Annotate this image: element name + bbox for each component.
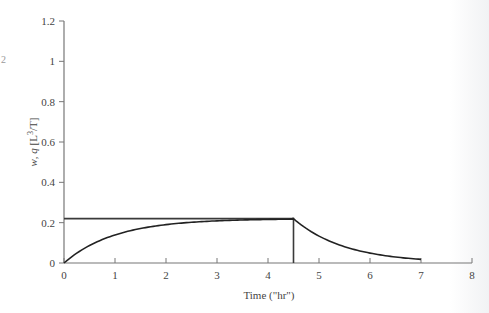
y-tick-label: 0.6	[41, 136, 55, 148]
x-tick-label: 3	[214, 269, 220, 281]
y-axis-title: w, q [L3/T]	[26, 118, 40, 167]
y-axis: 00.20.40.60.811.2	[41, 15, 64, 269]
y-tick-label: 0.2	[41, 217, 55, 229]
x-axis-title: Time ("hr")	[243, 289, 294, 302]
x-tick-label: 6	[367, 269, 373, 281]
series-q-curve	[64, 219, 421, 263]
x-tick-label: 1	[112, 269, 118, 281]
x-tick-label: 4	[265, 269, 271, 281]
y-tick-label: 1	[50, 55, 56, 67]
x-axis: 012345678	[61, 258, 475, 281]
x-tick-label: 7	[418, 269, 424, 281]
series-layer	[64, 219, 421, 263]
y-tick-label: 0	[50, 257, 56, 269]
x-tick-label: 8	[469, 269, 475, 281]
y-tick-label: 0.8	[41, 96, 55, 108]
y-tick-label: 0.4	[41, 176, 55, 188]
x-tick-label: 0	[61, 269, 67, 281]
chart-plot: 00.20.40.60.811.2 012345678 Time ("hr") …	[0, 0, 489, 313]
x-tick-label: 2	[163, 269, 169, 281]
y-tick-label: 1.2	[41, 15, 55, 27]
x-tick-label: 5	[316, 269, 322, 281]
